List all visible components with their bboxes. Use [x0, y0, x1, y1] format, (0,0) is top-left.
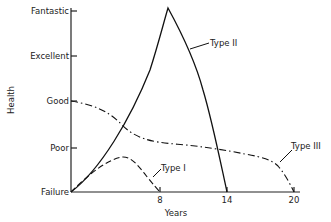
- type-1-label: Type I: [160, 163, 186, 173]
- type-1-leader: [153, 169, 161, 177]
- health-chart: Fantastic Excellent Good Poor Failure He…: [0, 0, 331, 222]
- y-axis-title: Health: [6, 86, 16, 114]
- type-2-leader: [190, 43, 209, 49]
- x-label-14: 14: [222, 195, 233, 205]
- y-label-good: Good: [47, 96, 69, 106]
- y-label-excellent: Excellent: [30, 51, 69, 61]
- y-label-failure: Failure: [41, 187, 69, 197]
- series-type-1-line: [71, 157, 160, 192]
- y-label-fantastic: Fantastic: [31, 6, 69, 16]
- type-3-label: Type III: [290, 141, 321, 151]
- type-3-leader: [280, 150, 292, 162]
- series-type-2-line: [71, 8, 227, 192]
- type-2-label: Type II: [209, 38, 237, 48]
- x-axis-title: Years: [164, 208, 188, 218]
- x-label-20: 20: [289, 195, 300, 205]
- y-label-poor: Poor: [50, 143, 69, 153]
- series-type-3-line: [71, 101, 294, 192]
- x-label-8: 8: [157, 195, 162, 205]
